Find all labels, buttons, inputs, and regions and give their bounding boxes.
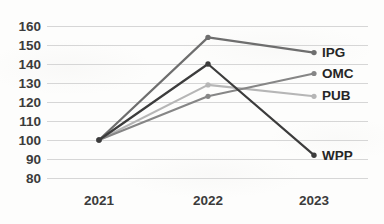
x-tick-2022: 2022 (193, 193, 223, 208)
y-tick-130: 130 (18, 76, 41, 91)
x-axis-tick-labels: 2021 2022 2023 (84, 193, 330, 208)
ipg-point-2023 (311, 50, 316, 55)
y-tick-110: 110 (19, 114, 41, 129)
omc-point-2022 (205, 94, 210, 99)
y-tick-120: 120 (18, 95, 41, 110)
ipg-point-2022 (205, 35, 210, 40)
y-tick-90: 90 (26, 152, 41, 167)
y-tick-80: 80 (26, 171, 41, 186)
wpp-point-2022 (205, 61, 210, 66)
wpp-point-2023 (311, 153, 316, 158)
omc-point-2023 (311, 71, 316, 76)
wpp-point-2021 (96, 137, 101, 142)
gridlines (47, 26, 368, 178)
y-tick-140: 140 (18, 57, 41, 72)
legend-label-omc: OMC (322, 66, 354, 81)
x-tick-2021: 2021 (84, 193, 115, 208)
series-line-omc (96, 71, 316, 143)
line-chart: 160 150 140 130 120 110 100 90 80 2021 2… (0, 0, 384, 224)
pub-point-2023 (311, 94, 316, 99)
pub-point-2022 (205, 82, 210, 87)
x-tick-2023: 2023 (299, 193, 330, 208)
series-line-wpp (96, 61, 316, 158)
chart-plot-area: 160 150 140 130 120 110 100 90 80 2021 2… (0, 0, 384, 224)
y-tick-160: 160 (18, 19, 41, 34)
legend-label-ipg: IPG (322, 45, 345, 60)
legend-label-pub: PUB (322, 88, 351, 103)
y-tick-100: 100 (18, 133, 41, 148)
pub-line (99, 85, 314, 140)
y-axis-tick-labels: 160 150 140 130 120 110 100 90 80 (18, 19, 41, 186)
chart-legend: IPG OMC PUB WPP (322, 45, 354, 163)
y-tick-150: 150 (18, 38, 41, 53)
series-line-ipg (96, 35, 316, 143)
legend-label-wpp: WPP (322, 148, 353, 163)
